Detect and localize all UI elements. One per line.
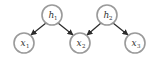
node-h1-subscript: 1 — [54, 15, 58, 21]
node-x2-label: x — [77, 38, 82, 48]
node-h2: h 2 — [97, 5, 117, 25]
node-x2-subscript: 2 — [82, 43, 86, 49]
edge-h1-x1 — [31, 23, 46, 35]
node-h1: h 1 — [42, 5, 62, 25]
node-x1: x 1 — [14, 33, 34, 53]
node-x3-label: x — [132, 38, 137, 48]
node-x1-subscript: 1 — [26, 43, 30, 49]
node-x3-subscript: 3 — [137, 43, 141, 49]
edge-h2-x3 — [113, 23, 128, 35]
node-x1-label: x — [21, 38, 26, 48]
node-h2-subscript: 2 — [109, 15, 113, 21]
edge-h1-x2 — [58, 23, 73, 35]
node-x3: x 3 — [125, 33, 145, 53]
node-x2: x 2 — [70, 33, 90, 53]
edge-h2-x2 — [87, 23, 101, 35]
graphical-model-diagram: h 1 h 2 x 1 x 2 x 3 — [0, 0, 149, 62]
